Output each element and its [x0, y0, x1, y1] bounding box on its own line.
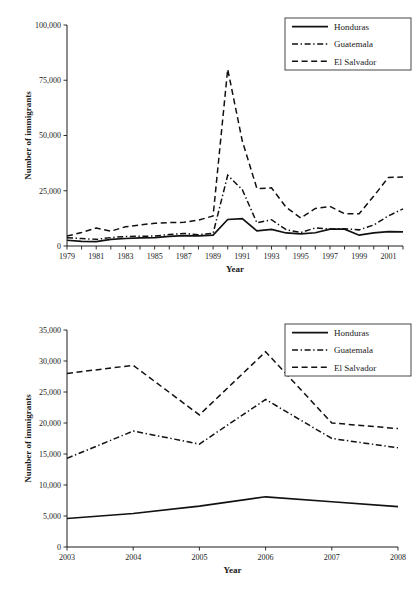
y-axis-title: Number of immigrants: [23, 394, 33, 483]
y-tick-label: 20,000: [39, 419, 61, 428]
series-line-guatemala: [67, 399, 398, 458]
y-tick-label: 0: [57, 543, 61, 552]
y-tick-label: 5,000: [43, 512, 61, 521]
legend-label-el-salvador: El Salvador: [334, 363, 376, 373]
legend-label-guatemala: Guatemala: [334, 39, 373, 49]
x-tick-label: 1995: [293, 252, 309, 261]
legend-label-guatemala: Guatemala: [334, 345, 373, 355]
chart-figure-top: 025,00050,00075,000100,000Number of immi…: [0, 0, 418, 300]
line-chart-2003-2008: 05,00010,00015,00020,00025,00030,00035,0…: [0, 300, 418, 595]
data-series-group: [67, 69, 403, 241]
x-tick-label: 1987: [176, 252, 192, 261]
x-tick-label: 1983: [117, 252, 133, 261]
y-axis-title: Number of immigrants: [23, 91, 33, 180]
legend: HondurasGuatemalaEl Salvador: [285, 324, 411, 376]
x-tick-label: 2008: [390, 553, 406, 562]
legend-label-honduras: Honduras: [334, 328, 369, 338]
x-axis-ticks: 1979198119831985198719891991199319951997…: [59, 246, 403, 261]
y-axis-ticks: 025,00050,00075,000100,000: [35, 21, 67, 251]
legend-label-el-salvador: El Salvador: [334, 57, 376, 67]
x-tick-label: 2007: [324, 553, 340, 562]
x-axis-ticks: 200320042005200620072008: [59, 547, 406, 562]
legend: HondurasGuatemalaEl Salvador: [285, 18, 411, 70]
y-tick-label: 35,000: [39, 326, 61, 335]
x-tick-label: 1991: [234, 252, 250, 261]
x-tick-label: 1997: [322, 252, 338, 261]
chart-figure-bottom: 05,00010,00015,00020,00025,00030,00035,0…: [0, 300, 418, 595]
series-line-el-salvador: [67, 69, 403, 236]
y-tick-label: 100,000: [35, 21, 61, 30]
y-tick-label: 50,000: [39, 131, 61, 140]
y-tick-label: 25,000: [39, 388, 61, 397]
x-tick-label: 2004: [125, 553, 141, 562]
y-tick-label: 10,000: [39, 481, 61, 490]
data-series-group: [67, 352, 398, 519]
x-tick-label: 2006: [258, 553, 274, 562]
series-line-honduras: [67, 497, 398, 519]
y-tick-label: 75,000: [39, 76, 61, 85]
y-tick-label: 15,000: [39, 450, 61, 459]
y-tick-label: 25,000: [39, 187, 61, 196]
x-tick-label: 1999: [351, 252, 367, 261]
x-tick-label: 1985: [147, 252, 163, 261]
y-tick-label: 0: [57, 242, 61, 251]
y-axis-ticks: 05,00010,00015,00020,00025,00030,00035,0…: [39, 326, 67, 552]
x-tick-label: 2005: [191, 553, 207, 562]
x-tick-label: 1989: [205, 252, 221, 261]
x-tick-label: 2001: [380, 252, 396, 261]
x-tick-label: 1981: [88, 252, 104, 261]
x-tick-label: 1993: [264, 252, 280, 261]
series-line-honduras: [67, 219, 403, 242]
y-tick-label: 30,000: [39, 357, 61, 366]
x-axis-title: Year: [226, 264, 244, 274]
x-axis-title: Year: [224, 565, 242, 575]
line-chart-1979-2002: 025,00050,00075,000100,000Number of immi…: [0, 0, 418, 300]
x-tick-label: 2003: [59, 553, 75, 562]
legend-label-honduras: Honduras: [334, 22, 369, 32]
x-tick-label: 1979: [59, 252, 75, 261]
